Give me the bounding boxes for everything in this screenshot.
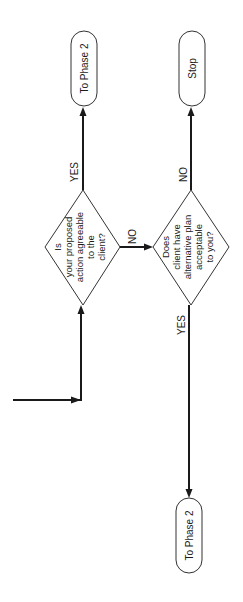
decision-alternative-line-1: Does [160, 236, 171, 258]
edge-label-yes: YES [176, 315, 187, 335]
entry-connector [13, 305, 85, 404]
arrowhead-icon [78, 305, 85, 314]
arrowhead-icon [144, 244, 153, 251]
decision-agreeable: Is your proposed action agreeable to the… [45, 190, 120, 305]
arrowhead-icon [188, 107, 195, 116]
terminal-label: To Phase 2 [79, 43, 90, 93]
arrowhead-icon [71, 397, 81, 404]
decision-agreeable-line-5: client? [96, 233, 107, 260]
terminal-to-phase-2-top: To Phase 2 [71, 31, 97, 106]
decision-agreeable-line-3: action agreeable [74, 212, 85, 282]
edge-label-no: NO [127, 229, 138, 244]
decision-alternative-line-3: alternative plan [182, 215, 193, 279]
edge-agreeable-no: NO [120, 229, 153, 251]
arrowhead-icon [186, 489, 193, 498]
decision-alternative-line-4: acceptable [193, 224, 204, 270]
terminal-label: To Phase 2 [184, 510, 195, 560]
flowchart-canvas: Is your proposed action agreeable to the… [0, 0, 243, 602]
edge-agreeable-yes: YES [69, 107, 87, 190]
decision-agreeable-line-2: your proposed [63, 217, 74, 278]
decision-agreeable-line-1: Is [52, 243, 63, 251]
decision-agreeable-line-4: to the [85, 235, 96, 259]
edge-alternative-yes: YES [176, 305, 193, 498]
terminal-label: Stop [187, 58, 198, 79]
edge-label-no: NO [178, 167, 189, 182]
arrowhead-icon [80, 107, 87, 116]
terminal-stop: Stop [179, 31, 205, 106]
decision-alternative-line-5: to you? [204, 231, 215, 262]
decision-alternative-plan: Does client have alternative plan accept… [153, 190, 229, 305]
terminal-to-phase-2-bottom: To Phase 2 [176, 498, 202, 573]
edge-alternative-no: NO [178, 107, 195, 190]
edge-label-yes: YES [69, 162, 80, 182]
decision-alternative-line-2: client have [171, 224, 182, 269]
